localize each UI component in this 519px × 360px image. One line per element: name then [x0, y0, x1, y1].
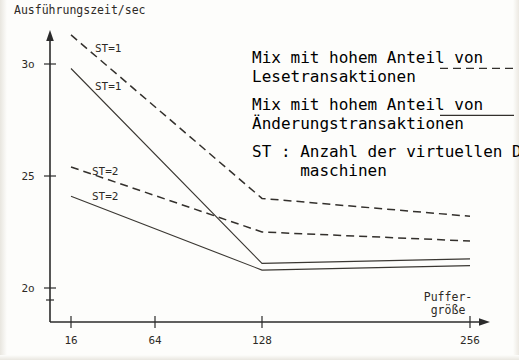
y-tick-label-20: 2o: [21, 282, 34, 295]
x-tick-label-128: 128: [252, 334, 272, 347]
legend-entry-aenderungstransaktionen: Mix mit hohem Anteil von Änderungstransa…: [252, 95, 514, 133]
series-annotation-0: ST=1: [95, 42, 122, 55]
legend-entry-line2: Änderungstransaktionen: [252, 114, 514, 133]
chart-legend: Mix mit hohem Anteil von Lesetransaktion…: [252, 48, 514, 180]
series-annotation-1: ST=1: [95, 80, 122, 93]
legend-note-line1: ST : Anzahl der virtuellen Datenbank-: [252, 142, 514, 161]
y-axis-title: Ausführungszeit/sec: [14, 3, 146, 17]
y-tick-label-30: 3o: [21, 58, 34, 71]
legend-entry-line1: Mix mit hohem Anteil von: [252, 95, 514, 114]
y-axis-arrowhead: [46, 30, 54, 41]
x-tick-label-16: 16: [64, 334, 77, 347]
x-axis-title-line2: größe: [431, 303, 466, 317]
x-axis: 16 64 128 256 Puffer- größe: [50, 290, 490, 347]
curve-series-3: [71, 196, 470, 270]
legend-note: ST : Anzahl der virtuellen Datenbank- ma…: [252, 142, 514, 180]
legend-sample-dashed: [440, 67, 514, 69]
legend-sample-solid: [440, 114, 514, 116]
y-tick-label-25: 25: [21, 170, 34, 183]
legend-entry-line1: Mix mit hohem Anteil von: [252, 48, 514, 67]
y-axis: 3o 25 2o Ausführungszeit/sec: [14, 3, 146, 322]
series-annotation-3: ST=2: [92, 190, 119, 203]
series-annotation-2: ST=2: [92, 165, 119, 178]
legend-note-line2: maschinen: [252, 161, 514, 180]
x-axis-title-line1: Puffer-: [424, 290, 472, 304]
x-tick-label-256: 256: [460, 334, 480, 347]
chart-figure: 3o 25 2o Ausführungszeit/sec 16 64 128 2…: [0, 0, 519, 360]
x-axis-arrowhead: [479, 318, 490, 326]
series-annotations: ST=1ST=1ST=2ST=2: [92, 42, 122, 203]
legend-entry-lesetransaktionen: Mix mit hohem Anteil von Lesetransaktion…: [252, 48, 514, 86]
x-tick-label-64: 64: [148, 334, 162, 347]
legend-entry-line2: Lesetransaktionen: [252, 67, 514, 86]
